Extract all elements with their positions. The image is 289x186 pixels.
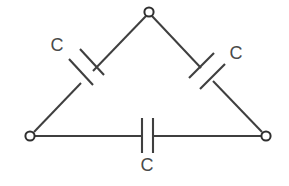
capacitor-left-plate-a <box>69 59 93 85</box>
capacitor-bottom-label: C <box>141 155 154 175</box>
circuit-figure: C C C <box>0 0 289 186</box>
top-terminal-node <box>144 7 153 16</box>
wire-left-lower <box>34 83 81 132</box>
capacitor-right-plate-b <box>200 64 225 89</box>
wire-right-lower <box>213 81 262 132</box>
wire-right-upper <box>152 16 201 68</box>
circuit-diagram: C C C <box>0 0 289 186</box>
left-terminal-node <box>25 131 34 140</box>
wire-left-upper <box>93 16 146 71</box>
capacitor-left-label: C <box>51 35 64 55</box>
capacitor-right-plate-a <box>189 53 214 78</box>
capacitor-right-label: C <box>230 43 243 63</box>
right-terminal-node <box>261 131 270 140</box>
